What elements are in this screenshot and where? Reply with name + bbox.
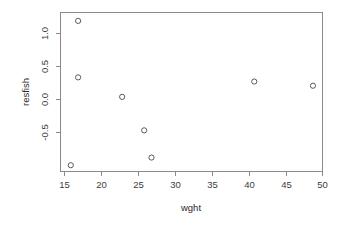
data-points-layer bbox=[68, 18, 315, 168]
data-point bbox=[252, 79, 257, 84]
y-axis-tick-labels: 1.0 0.5 0.0 -0.5 bbox=[39, 27, 50, 141]
x-axis-title: wght bbox=[180, 202, 201, 213]
y-axis-title: resfish bbox=[20, 78, 31, 106]
x-tick-label-15: 15 bbox=[59, 179, 70, 190]
x-tick-label-40: 40 bbox=[244, 179, 255, 190]
scatter-plot-figure: 1.0 0.5 0.0 -0.5 15 20 25 30 35 40 45 50 bbox=[0, 0, 340, 227]
x-axis-ticks bbox=[65, 172, 323, 177]
y-tick-label-0.5: 0.5 bbox=[39, 60, 50, 73]
x-tick-label-25: 25 bbox=[133, 179, 144, 190]
x-axis-tick-labels: 15 20 25 30 35 40 45 50 bbox=[59, 179, 328, 190]
x-tick-label-50: 50 bbox=[317, 179, 328, 190]
x-tick-label-30: 30 bbox=[170, 179, 181, 190]
x-tick-label-35: 35 bbox=[207, 179, 218, 190]
data-point bbox=[149, 155, 154, 160]
data-point bbox=[68, 163, 73, 168]
data-point bbox=[76, 18, 81, 23]
plot-frame bbox=[61, 13, 323, 172]
y-axis-ticks bbox=[56, 34, 61, 133]
data-point bbox=[310, 83, 315, 88]
data-point bbox=[120, 94, 125, 99]
plot-canvas: 1.0 0.5 0.0 -0.5 15 20 25 30 35 40 45 50 bbox=[0, 0, 340, 227]
y-tick-label--0.5: -0.5 bbox=[39, 124, 50, 140]
data-point bbox=[142, 128, 147, 133]
y-tick-label-0.0: 0.0 bbox=[39, 93, 50, 106]
x-tick-label-20: 20 bbox=[96, 179, 107, 190]
data-point bbox=[76, 75, 81, 80]
y-tick-label-1.0: 1.0 bbox=[39, 27, 50, 40]
x-tick-label-45: 45 bbox=[281, 179, 292, 190]
